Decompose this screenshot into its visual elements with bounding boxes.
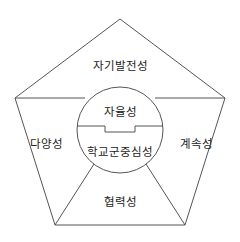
principles-pentagon-diagram: 자기발전성 자율성 학교군중심성 다양성 계속성 협력성: [0, 0, 240, 242]
center-circle: [77, 87, 163, 173]
circle-notched-divider: [77, 126, 163, 132]
divider-line-bottom-left: [55, 164, 94, 225]
label-school-cluster-centered: 학교군중심성: [87, 145, 153, 159]
label-continuity: 계속성: [180, 137, 213, 151]
divider-line-bottom-right: [146, 164, 185, 225]
label-autonomy: 자율성: [104, 105, 137, 119]
label-diversity: 다양성: [30, 137, 63, 151]
label-self-development: 자기발전성: [93, 59, 148, 73]
label-cooperation: 협력성: [104, 195, 137, 209]
